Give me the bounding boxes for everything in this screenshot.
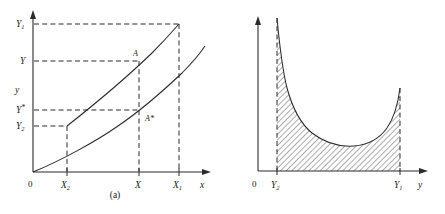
x-axis-arrowhead [419,168,428,174]
x-tick-label-X2: X2 [60,180,71,191]
curve-upper [67,24,179,126]
y-axis-label: y [14,85,20,95]
point-label-A: A [132,49,138,58]
shaded-region [277,18,400,171]
panel-a: Y1 Y Y* Y2 y 0 X2 X X1 x A A* (a) [0,0,230,214]
x-axis-label: y [417,180,423,190]
x-tick-label-X1: X1 [172,180,182,191]
y-axis-arrowhead [255,16,261,25]
x-tick-label-Y1: Y1 [394,180,403,191]
panel-b-plot: 0 Y2 Y1 y [230,0,445,214]
panel-a-plot: Y1 Y Y* Y2 y 0 X2 X X1 x A A* [0,0,230,214]
origin-label: 0 [28,179,33,189]
y-tick-label-Ystar: Y* [16,103,25,115]
y-tick-label-Y2: Y2 [16,121,25,132]
x-axis-label: x [199,180,205,190]
y-axis-arrowhead [30,10,36,19]
origin-label: 0 [252,179,257,189]
point-label-Astar: A* [144,114,154,123]
y-tick-label-Y1: Y1 [16,19,25,30]
panel-b: 0 Y2 Y1 y 1 y1* (b) [230,0,445,214]
figure-container: Y1 Y Y* Y2 y 0 X2 X X1 x A A* (a) [0,0,445,214]
panel-a-caption: (a) [95,190,135,200]
x-tick-label-X: X [134,180,142,190]
x-axis-arrowhead [202,169,211,175]
y-tick-label-Y: Y [20,56,27,66]
x-tick-label-Y2: Y2 [271,180,280,191]
